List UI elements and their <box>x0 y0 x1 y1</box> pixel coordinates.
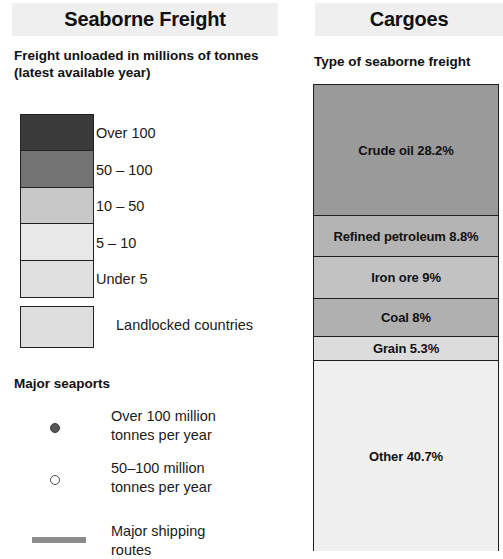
legend-subtitle: Freight unloaded in millions of tonnes (… <box>14 47 282 81</box>
legend-swatch-landlocked <box>20 306 94 348</box>
page-title-seaborne-freight: Seaborne Freight <box>64 8 225 31</box>
legend-label-5-10: 5 – 10 <box>96 234 136 252</box>
cargo-segment-label-iron-ore: Iron ore 9% <box>371 270 441 285</box>
cargo-segment-iron-ore: Iron ore 9% <box>314 257 498 299</box>
cargo-segment-label-coal: Coal 8% <box>381 310 431 325</box>
seaport-label-50-100-line2: tonnes per year <box>111 478 212 497</box>
legend-swatch-under-5 <box>21 261 93 297</box>
cargo-segment-label-grain: Grain 5.3% <box>373 341 439 356</box>
legend-swatch-5-10 <box>21 224 93 260</box>
page-title-cargoes: Cargoes <box>370 8 449 31</box>
legend-label-under-5: Under 5 <box>96 270 148 288</box>
major-seaports-heading: Major seaports <box>14 376 110 391</box>
cargo-segment-label-other: Other 40.7% <box>369 449 443 464</box>
shipping-routes-label-line2: routes <box>111 541 151 559</box>
seaport-label-over-100-line1: Over 100 million <box>111 407 216 426</box>
legend-swatch-over-100 <box>21 115 93 151</box>
cargo-segment-grain: Grain 5.3% <box>314 337 498 362</box>
legend-label-landlocked: Landlocked countries <box>116 317 253 333</box>
seaport-label-over-100-line2: tonnes per year <box>111 426 212 445</box>
cargo-segment-coal: Coal 8% <box>314 299 498 336</box>
cargo-segment-other: Other 40.7% <box>314 361 498 551</box>
shipping-route-line-icon <box>32 537 86 543</box>
filled-dot-icon <box>50 423 60 433</box>
cargoes-header: Cargoes <box>315 3 503 36</box>
legend-swatch-50-100 <box>21 151 93 187</box>
legend-label-50-100: 50 – 100 <box>96 161 152 179</box>
cargo-segment-refined-petroleum: Refined petroleum 8.8% <box>314 216 498 257</box>
seaborne-freight-panel: Seaborne Freight Freight unloaded in mil… <box>0 0 290 551</box>
legend-swatch-10-50 <box>21 188 93 224</box>
cargo-segment-crude-oil: Crude oil 28.2% <box>314 85 498 216</box>
legend-label-10-50: 10 – 50 <box>96 197 144 215</box>
shipping-routes-label-line1: Major shipping <box>111 522 205 541</box>
open-circle-icon <box>50 475 60 485</box>
choropleth-legend <box>20 114 94 298</box>
seaborne-freight-header: Seaborne Freight <box>12 3 278 36</box>
cargo-segment-label-crude-oil: Crude oil 28.2% <box>358 143 453 158</box>
seaport-label-50-100-line1: 50–100 million <box>111 459 205 478</box>
cargoes-subtitle: Type of seaborne freight <box>314 53 503 70</box>
cargo-segment-label-refined-petroleum: Refined petroleum 8.8% <box>333 229 478 244</box>
legend-label-over-100: Over 100 <box>96 124 156 142</box>
cargo-stacked-bar-chart: Crude oil 28.2% Refined petroleum 8.8% I… <box>313 84 499 551</box>
